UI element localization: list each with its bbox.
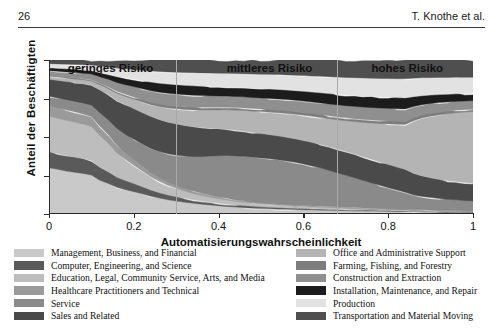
chart-svg (49, 60, 473, 214)
legend-label: Education, Legal, Community Service, Art… (51, 272, 265, 283)
legend-swatch-icon (14, 261, 44, 270)
legend-swatch-icon (14, 299, 44, 308)
legend-swatch-icon (14, 286, 44, 295)
stacked-area-chart (49, 60, 473, 214)
y-axis-tick (44, 176, 49, 177)
region-label: mittleres Risiko (227, 62, 313, 74)
header-rule (18, 27, 485, 28)
x-axis-tick (134, 214, 135, 218)
legend-label: Service (51, 298, 80, 309)
figure: Anteil der Beschäftigten geringes Risiko… (0, 42, 503, 334)
legend-swatch-icon (296, 286, 326, 295)
x-axis-tick (388, 214, 389, 218)
x-axis-line (49, 213, 474, 214)
legend-item[interactable]: Management, Business, and Financial (14, 247, 265, 259)
x-axis-tick-label: 1 (470, 220, 476, 232)
x-axis-tick-label: 0.6 (296, 220, 311, 232)
region-divider (337, 60, 338, 214)
legend-label: Healthcare Practitioners and Technical (51, 285, 199, 296)
x-axis-tick-label: 0 (46, 220, 52, 232)
y-axis-tick (44, 99, 49, 100)
legend-item[interactable]: Farming, Fishing, and Forestry (296, 260, 477, 272)
page: 26 T. Knothe et al. Anteil der Beschäfti… (0, 0, 503, 334)
legend-column-left: Management, Business, and FinancialCompu… (14, 247, 265, 323)
legend-label: Farming, Fishing, and Forestry (333, 260, 452, 271)
x-axis-tick (473, 214, 474, 218)
x-axis-tick-labels: 00.20.40.60.81 (0, 220, 503, 236)
y-axis-tick (44, 60, 49, 61)
plot-area (49, 60, 473, 214)
legend-item[interactable]: Computer, Engineering, and Science (14, 260, 265, 272)
legend-label: Production (333, 298, 375, 309)
legend-swatch-icon (296, 274, 326, 283)
legend-item[interactable]: Healthcare Practitioners and Technical (14, 285, 265, 297)
y-axis-tick (44, 137, 49, 138)
running-head: 26 T. Knothe et al. (0, 8, 503, 34)
legend-label: Transportation and Material Moving (333, 310, 473, 321)
legend-label: Installation, Maintenance, and Repair (333, 285, 477, 296)
legend-item[interactable]: Education, Legal, Community Service, Art… (14, 272, 265, 284)
legend-item[interactable]: Construction and Extraction (296, 272, 477, 284)
region-label: geringes Risiko (68, 62, 154, 74)
region-label: hohes Risiko (372, 62, 444, 74)
legend-item[interactable]: Office and Administrative Support (296, 247, 477, 259)
legend-item[interactable]: Service (14, 297, 265, 309)
legend-item[interactable]: Production (296, 297, 477, 309)
running-head-authors: T. Knothe et al. (412, 10, 485, 22)
legend-label: Management, Business, and Financial (51, 247, 197, 258)
legend-item[interactable]: Installation, Maintenance, and Repair (296, 285, 477, 297)
legend-label: Construction and Extraction (333, 272, 441, 283)
legend-item[interactable]: Sales and Related (14, 310, 265, 322)
legend-label: Computer, Engineering, and Science (51, 260, 192, 271)
y-axis-label: Anteil der Beschäftigten (25, 33, 37, 183)
legend-swatch-icon (14, 249, 44, 258)
legend-swatch-icon (296, 299, 326, 308)
x-axis-tick-label: 0.4 (211, 220, 226, 232)
region-divider (176, 60, 177, 214)
legend-item[interactable]: Transportation and Material Moving (296, 310, 477, 322)
y-axis-line (49, 60, 50, 214)
x-axis-tick-label: 0.2 (126, 220, 141, 232)
x-axis-tick (49, 214, 50, 218)
legend: Management, Business, and FinancialCompu… (0, 247, 503, 327)
legend-swatch-icon (296, 261, 326, 270)
page-number: 26 (18, 10, 30, 22)
legend-label: Office and Administrative Support (333, 247, 466, 258)
legend-swatch-icon (296, 312, 326, 321)
legend-swatch-icon (296, 249, 326, 258)
x-axis-tick-label: 0.8 (381, 220, 396, 232)
x-axis-tick (303, 214, 304, 218)
legend-label: Sales and Related (51, 310, 119, 321)
legend-swatch-icon (14, 274, 44, 283)
legend-column-right: Office and Administrative SupportFarming… (296, 247, 477, 323)
legend-swatch-icon (14, 312, 44, 321)
x-axis-tick (219, 214, 220, 218)
